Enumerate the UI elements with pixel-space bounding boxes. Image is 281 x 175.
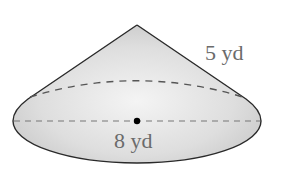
cone-diagram: 5 yd 8 yd [0, 0, 281, 175]
base-diameter-label: 8 yd [114, 128, 153, 153]
slant-height-label: 5 yd [205, 40, 244, 65]
center-dot [134, 118, 140, 124]
